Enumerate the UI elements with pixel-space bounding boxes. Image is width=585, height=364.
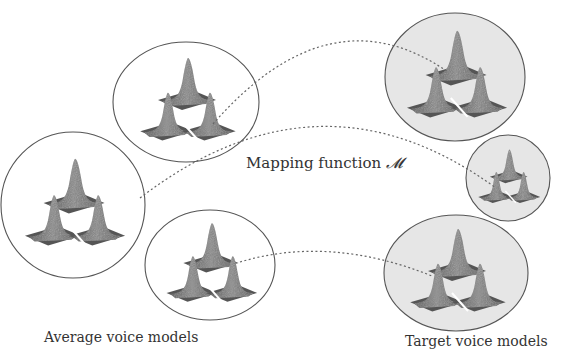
target-voice-models-label: Target voice models [405,333,548,349]
average-voice-model-2 [1,132,145,278]
target-voice-model-2 [466,135,550,221]
diagram-canvas [0,0,585,364]
target-voice-model-3 [384,215,528,331]
average-voice-models-label: Average voice models [44,329,198,345]
average-voice-model-1 [113,42,259,162]
average-voice-model-3 [145,210,275,320]
mapping-function-label: Mapping function 𝓜 [246,154,403,172]
mapping-function-text: Mapping function [246,154,381,172]
voice-model-ellipses [1,13,550,331]
mapping-symbol: 𝓜 [386,154,403,172]
voice-mapping-diagram: Mapping function 𝓜 Average voice models … [0,0,585,364]
target-voice-model-1 [385,13,525,141]
